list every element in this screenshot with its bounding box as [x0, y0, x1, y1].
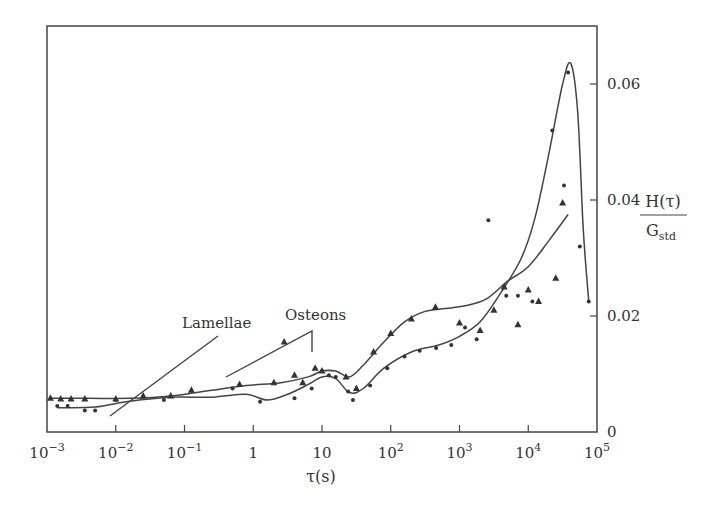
dot-marker [293, 396, 297, 400]
y-axis-title: H(τ) Gstd [640, 192, 687, 243]
dot-marker [83, 409, 87, 413]
x-tick-label: 10−2 [98, 441, 133, 462]
x-tick-label: 104 [515, 441, 541, 462]
x-axis-title: τ(s) [306, 467, 336, 486]
dot-marker [475, 337, 479, 341]
y-tick-label: 0.04 [607, 191, 640, 209]
x-tick-label: 10 [312, 444, 331, 462]
dot-marker [231, 387, 235, 391]
triangle-marker [535, 298, 542, 305]
triangle-marker [236, 380, 243, 387]
annotation-osteons: Osteons [285, 306, 346, 324]
dot-marker [334, 375, 338, 379]
triangle-marker [514, 321, 521, 328]
dot-marker [66, 404, 70, 408]
dot-marker [449, 343, 453, 347]
triangle-marker [477, 327, 484, 334]
y-tick-label: 0.02 [607, 307, 640, 325]
data-points [47, 70, 591, 412]
dot-marker [162, 398, 166, 402]
triangle-marker [525, 286, 532, 293]
dot-marker [434, 346, 438, 350]
chart-canvas: 10−310−210−1110102103104105 00.020.040.0… [0, 0, 713, 509]
fit-curves [50, 62, 588, 407]
dot-marker [368, 384, 372, 388]
dot-marker [578, 244, 582, 248]
x-tick-label: 10−3 [29, 441, 64, 462]
dot-marker [566, 70, 570, 74]
dot-marker [327, 373, 331, 377]
dot-marker [418, 349, 422, 353]
triangle-marker [188, 386, 195, 393]
fit-curve [57, 62, 588, 407]
dot-marker [55, 404, 59, 408]
dot-marker [310, 387, 314, 391]
dot-marker [504, 294, 508, 298]
dot-marker [530, 300, 534, 304]
triangle-marker [552, 274, 559, 281]
triangle-marker [432, 303, 439, 310]
triangle-marker [281, 338, 288, 345]
triangle-marker [291, 371, 298, 378]
y-tick-label: 0 [607, 423, 617, 441]
x-tick-label: 102 [378, 441, 404, 462]
dot-marker [486, 218, 490, 222]
y-tick-label: 0.06 [607, 75, 640, 93]
x-axis-ticks: 10−310−210−1110102103104105 [29, 425, 610, 462]
annotation-lamellae: Lamellae [182, 314, 252, 332]
triangle-marker [559, 199, 566, 206]
y-axis-title-denominator: Gstd [646, 221, 676, 243]
dot-marker [93, 409, 97, 413]
triangle-marker [270, 379, 277, 386]
dot-marker [562, 184, 566, 188]
dot-marker [463, 326, 467, 330]
x-tick-label: 1 [248, 444, 258, 462]
triangle-marker [353, 385, 360, 392]
y-axis-title-numerator: H(τ) [645, 192, 680, 211]
dot-marker [550, 128, 554, 132]
x-tick-label: 103 [446, 441, 472, 462]
dot-marker [346, 389, 350, 393]
x-tick-label: 105 [584, 441, 610, 462]
dot-marker [403, 355, 407, 359]
dot-marker [587, 300, 591, 304]
dot-marker [351, 398, 355, 402]
triangle-marker [312, 364, 319, 371]
dot-marker [258, 400, 262, 404]
x-tick-label: 10−1 [167, 441, 202, 462]
dot-marker [516, 294, 520, 298]
dot-marker [385, 366, 389, 370]
triangle-marker [456, 319, 463, 326]
triangle-marker [343, 373, 350, 380]
